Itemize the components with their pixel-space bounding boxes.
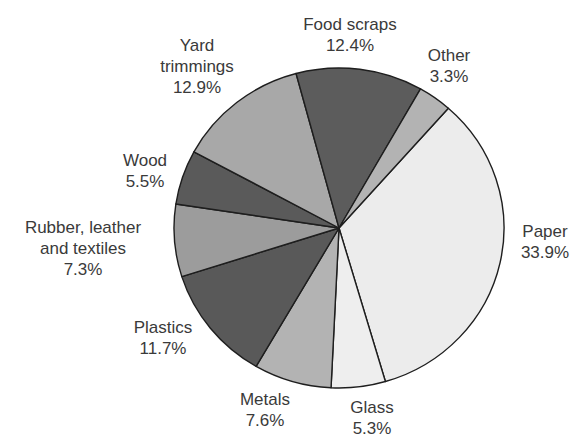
- pie-chart: Food scraps 12.4% Other 3.3% Yard trimmi…: [0, 0, 585, 445]
- label-rubber-leather-textiles: Rubber, leather and textiles 7.3%: [8, 217, 158, 280]
- label-metals: Metals 7.6%: [230, 389, 300, 431]
- label-glass: Glass 5.3%: [337, 397, 407, 439]
- label-food-scraps: Food scraps 12.4%: [290, 14, 410, 56]
- label-yard-trimmings: Yard trimmings 12.9%: [142, 35, 252, 98]
- label-wood: Wood 5.5%: [110, 150, 180, 192]
- label-other: Other 3.3%: [414, 45, 484, 87]
- label-plastics: Plastics 11.7%: [118, 317, 208, 359]
- label-paper: Paper 33.9%: [505, 221, 585, 263]
